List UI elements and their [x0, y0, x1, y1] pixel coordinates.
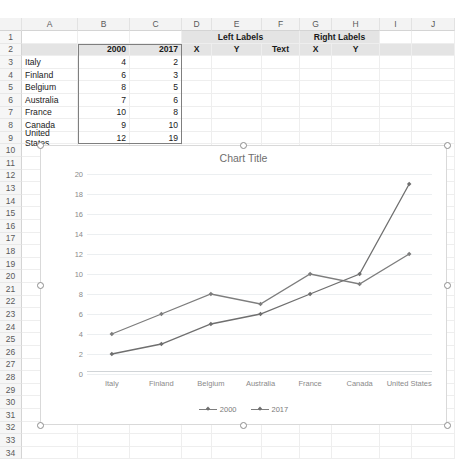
row-header-23[interactable]: 23 [0, 308, 22, 321]
value-2000-cell[interactable]: 4 [78, 56, 130, 69]
grid-cell[interactable] [332, 56, 380, 69]
row-header-27[interactable]: 27 [0, 359, 22, 372]
country-name-cell[interactable]: Australia [22, 94, 78, 107]
value-2000-cell[interactable]: 7 [78, 94, 130, 107]
data-point-marker[interactable] [110, 332, 115, 337]
handle-top-center[interactable] [240, 142, 247, 149]
grid-cell[interactable] [332, 132, 380, 145]
grid-cell[interactable] [212, 447, 262, 459]
grid-cell[interactable] [300, 94, 332, 107]
cell-j2[interactable] [412, 44, 455, 57]
row-header-20[interactable]: 20 [0, 270, 22, 283]
row-header-6[interactable]: 6 [0, 94, 22, 107]
value-2000-cell[interactable]: 8 [78, 81, 130, 94]
col-b-header[interactable]: 2000 [78, 44, 130, 57]
row-header-7[interactable]: 7 [0, 107, 22, 120]
grid-cell[interactable] [332, 81, 380, 94]
grid-cell[interactable] [380, 447, 412, 459]
country-name-cell[interactable]: United States [22, 132, 78, 145]
handle-top-right[interactable] [444, 142, 451, 149]
grid-cell[interactable] [262, 107, 300, 120]
grid-cell[interactable] [380, 132, 412, 145]
grid-cell[interactable] [412, 447, 455, 459]
handle-middle-left[interactable] [37, 282, 44, 289]
grid-cell[interactable] [412, 56, 455, 69]
value-2000-cell[interactable]: 10 [78, 107, 130, 120]
grid-cell[interactable] [212, 107, 262, 120]
data-point-marker[interactable] [159, 312, 164, 317]
grid-cell[interactable] [300, 434, 332, 447]
grid-cell[interactable] [300, 69, 332, 82]
row-header-16[interactable]: 16 [0, 220, 22, 233]
grid-cell[interactable] [130, 434, 182, 447]
data-point-marker[interactable] [308, 292, 313, 297]
row-header-25[interactable]: 25 [0, 333, 22, 346]
chart-object[interactable]: Chart Title02468101214161820ItalyFinland… [40, 145, 447, 425]
country-name-cell[interactable]: Belgium [22, 81, 78, 94]
grid-cell[interactable] [212, 119, 262, 132]
grid-cell[interactable] [182, 56, 212, 69]
grid-cell[interactable] [262, 56, 300, 69]
value-2000-cell[interactable]: 6 [78, 69, 130, 82]
row-header-17[interactable]: 17 [0, 233, 22, 246]
grid-cell[interactable] [412, 94, 455, 107]
left-labels-x[interactable]: X [182, 44, 212, 57]
grid-cell[interactable] [332, 69, 380, 82]
value-2000-cell[interactable]: 9 [78, 119, 130, 132]
grid-cell[interactable] [380, 81, 412, 94]
value-2017-cell[interactable]: 2 [130, 56, 182, 69]
row-header-31[interactable]: 31 [0, 409, 22, 422]
value-2017-cell[interactable]: 8 [130, 107, 182, 120]
column-header-c[interactable]: C [130, 18, 182, 31]
right-labels-group-header[interactable]: Right Labels [300, 31, 380, 44]
grid-cell[interactable] [300, 132, 332, 145]
grid-cell[interactable] [412, 434, 455, 447]
value-2017-cell[interactable]: 5 [130, 81, 182, 94]
grid-cell[interactable] [22, 434, 78, 447]
row-header-15[interactable]: 15 [0, 207, 22, 220]
grid-cell[interactable] [380, 69, 412, 82]
row-header-26[interactable]: 26 [0, 346, 22, 359]
row-header-2[interactable]: 2 [0, 44, 22, 57]
grid-cell[interactable] [22, 447, 78, 459]
grid-cell[interactable] [332, 107, 380, 120]
row-header-1[interactable]: 1 [0, 31, 22, 44]
grid-cell[interactable] [380, 107, 412, 120]
row-header-28[interactable]: 28 [0, 371, 22, 384]
handle-bottom-right[interactable] [444, 422, 451, 429]
left-labels-y[interactable]: Y [212, 44, 262, 57]
row-header-9[interactable]: 9 [0, 132, 22, 145]
row-header-4[interactable]: 4 [0, 69, 22, 82]
row-header-5[interactable]: 5 [0, 81, 22, 94]
legend-item-2000[interactable]: 2000 [199, 405, 237, 414]
grid-cell[interactable] [212, 69, 262, 82]
grid-cell[interactable] [212, 94, 262, 107]
grid-cell[interactable] [130, 447, 182, 459]
grid-cell[interactable] [78, 447, 130, 459]
left-labels-text[interactable]: Text [262, 44, 300, 57]
country-name-cell[interactable]: Italy [22, 56, 78, 69]
grid-cell[interactable] [262, 119, 300, 132]
right-labels-y[interactable]: Y [332, 44, 380, 57]
grid-cell[interactable] [212, 132, 262, 145]
grid-cell[interactable] [412, 31, 455, 44]
grid-cell[interactable] [412, 81, 455, 94]
handle-middle-right[interactable] [444, 282, 451, 289]
data-point-marker[interactable] [159, 342, 164, 347]
row-header-8[interactable]: 8 [0, 119, 22, 132]
row-header-10[interactable]: 10 [0, 144, 22, 157]
column-header-g[interactable]: G [300, 18, 332, 31]
row-header-34[interactable]: 34 [0, 447, 22, 459]
grid-cell[interactable] [182, 94, 212, 107]
grid-cell[interactable] [380, 119, 412, 132]
grid-cell[interactable] [332, 447, 380, 459]
column-header-h[interactable]: H [332, 18, 380, 31]
data-point-marker[interactable] [209, 322, 214, 327]
left-labels-group-header[interactable]: Left Labels [182, 31, 300, 44]
handle-bottom-center[interactable] [240, 422, 247, 429]
data-point-marker[interactable] [110, 352, 115, 357]
grid-cell[interactable] [300, 119, 332, 132]
grid-cell[interactable] [182, 81, 212, 94]
grid-cell[interactable] [300, 107, 332, 120]
grid-cell[interactable] [332, 434, 380, 447]
